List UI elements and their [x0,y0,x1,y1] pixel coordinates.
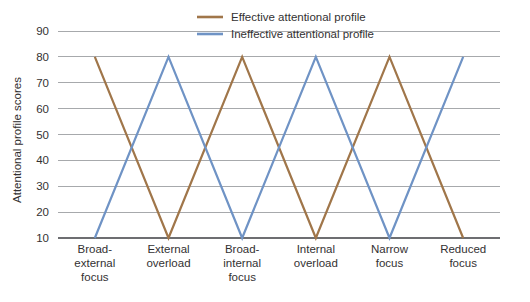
legend-label: Effective attentional profile [231,11,366,23]
y-tick-label: 60 [36,103,49,115]
x-category-label-line: Internal [297,243,335,255]
x-category-label-line: Narrow [371,243,409,255]
y-tick-label: 70 [36,77,49,89]
x-category-label-line: Broad- [78,243,113,255]
x-category-label-line: External [147,243,189,255]
y-tick-label: 50 [36,129,49,141]
y-tick-label: 30 [36,180,49,192]
y-axis-title: Attentional profile scores [11,77,23,203]
y-tick-label: 40 [36,154,49,166]
y-tick-label: 90 [36,25,49,37]
x-category-label: Broad-internalfocus [223,243,261,283]
attentional-profile-line-chart: 908070605040302010 Broad-externalfocusEx… [0,0,530,302]
x-category-label-line: overload [146,257,190,269]
x-category-label-line: focus [81,271,109,283]
x-category-label-line: internal [223,257,261,269]
x-category-label-line: overload [294,257,338,269]
x-category-label-line: focus [376,257,404,269]
x-category-label-line: external [74,257,115,269]
x-category-label-line: Reduced [440,243,486,255]
x-category-label-line: Broad- [225,243,260,255]
y-tick-label: 10 [36,232,49,244]
legend-label: Ineffective attentional profile [231,28,374,40]
chart-container: 908070605040302010 Broad-externalfocusEx… [0,0,530,302]
y-tick-label: 20 [36,206,49,218]
x-category-label-line: focus [449,257,477,269]
x-category-label-line: focus [228,271,256,283]
y-tick-label: 80 [36,51,49,63]
y-axis-tick-labels: 908070605040302010 [36,25,49,244]
